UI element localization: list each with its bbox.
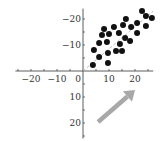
data-point <box>134 20 140 26</box>
data-point <box>117 41 123 47</box>
data-point <box>113 48 119 54</box>
data-point <box>90 62 96 68</box>
scatter-chart: −20−10010202010−10−20 <box>0 0 166 141</box>
data-point <box>105 50 111 56</box>
data-point <box>96 54 102 60</box>
data-point <box>149 15 155 21</box>
data-point <box>99 32 105 38</box>
x-tick-label: −20 <box>22 74 41 84</box>
data-point <box>119 48 125 54</box>
data-point <box>139 8 145 14</box>
data-point <box>122 35 128 41</box>
y-tick-label: 20 <box>70 118 82 128</box>
trend-line <box>83 11 153 71</box>
data-point <box>143 13 149 19</box>
x-tick-label: 0 <box>75 74 81 84</box>
data-point <box>116 30 122 36</box>
y-tick-label: 10 <box>70 92 82 102</box>
x-tick-label: −10 <box>48 74 67 84</box>
data-point <box>127 38 133 44</box>
data-point <box>91 47 97 53</box>
data-point <box>128 24 134 30</box>
data-point <box>105 60 111 66</box>
x-tick-label: 20 <box>129 74 141 84</box>
data-point <box>123 16 129 22</box>
data-point <box>143 23 149 29</box>
data-point <box>120 22 126 28</box>
data-point <box>111 24 117 30</box>
y-tick-label: −20 <box>62 14 81 24</box>
data-point <box>101 26 107 32</box>
y-tick-label: −10 <box>62 40 81 50</box>
x-tick-label: 10 <box>103 74 115 84</box>
arrow-shaft <box>98 97 127 122</box>
data-point <box>106 31 112 37</box>
data-point <box>104 39 110 45</box>
data-point <box>96 40 102 46</box>
data-point <box>134 30 140 36</box>
